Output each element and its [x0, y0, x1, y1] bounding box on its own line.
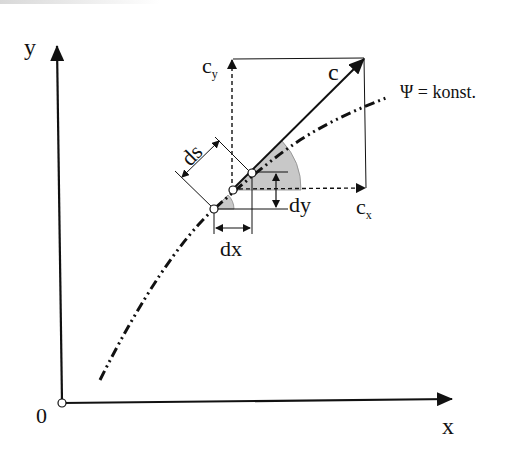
dx-label: dx: [220, 236, 242, 261]
curve-point-upper: [248, 169, 256, 177]
c-label: c: [328, 59, 339, 85]
streamline-curve: [100, 98, 386, 380]
cy-label: cy: [202, 53, 218, 81]
origin-point: [58, 399, 66, 407]
curve-point-lower: [210, 205, 218, 213]
x-axis-label: x: [442, 413, 454, 439]
curve-label: Ψ = konst.: [400, 82, 476, 102]
y-axis-label: y: [24, 34, 36, 60]
cx-label: cx: [356, 194, 372, 222]
ds-label: ds: [176, 139, 208, 171]
streamline-diagram: y x 0 cy cx c Ψ = konst. ds dx dy: [0, 0, 518, 461]
curve-point-middle: [229, 186, 237, 194]
x-axis: [62, 399, 452, 403]
y-axis: [57, 46, 62, 402]
dy-label: dy: [289, 192, 311, 217]
origin-label: 0: [36, 403, 47, 428]
